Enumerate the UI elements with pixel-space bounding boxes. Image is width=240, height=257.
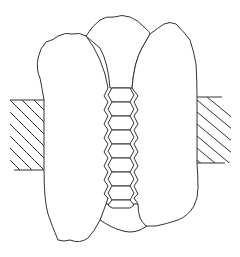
hex-cell (108, 88, 134, 102)
right-lobe (132, 23, 198, 227)
hex-cell (108, 186, 134, 200)
hex-cell (108, 172, 134, 186)
hex-cell (108, 116, 134, 130)
right-hatched-block (197, 97, 240, 190)
diagram-svg (0, 0, 240, 257)
hex-cell (108, 158, 134, 172)
left-lobe (37, 33, 108, 241)
hex-cell (108, 144, 134, 158)
hex-cell (108, 102, 134, 116)
diagram-canvas (0, 0, 240, 257)
hex-column (108, 88, 134, 208)
hex-cell (108, 200, 134, 208)
hex-cell (108, 130, 134, 144)
